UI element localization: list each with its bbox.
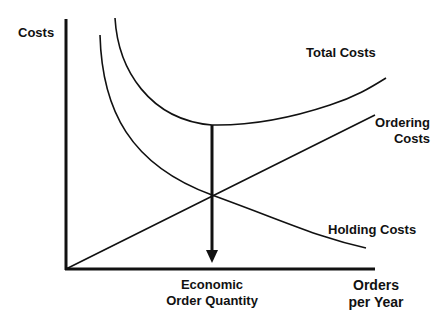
eoq-arrow-head-icon	[206, 250, 218, 263]
ordering-costs-label-line1: Ordering	[372, 115, 430, 131]
x-axis-label-line1: Orders	[341, 277, 411, 294]
eoq-label-line2: Order Quantity	[160, 293, 264, 309]
ordering-costs-label-line2: Costs	[372, 131, 430, 147]
eoq-diagram	[0, 0, 447, 318]
x-axis-label-line2: per Year	[341, 294, 411, 311]
holding-costs-curve	[100, 35, 366, 248]
ordering-costs-line	[66, 115, 375, 269]
ordering-costs-label: Ordering Costs	[372, 115, 430, 147]
total-costs-curve	[115, 18, 386, 125]
eoq-label-line1: Economic	[160, 277, 264, 293]
holding-costs-label: Holding Costs	[328, 222, 416, 238]
total-costs-label: Total Costs	[306, 45, 376, 61]
x-axis-label: Orders per Year	[341, 277, 411, 311]
y-axis-label: Costs	[18, 25, 54, 41]
eoq-label: Economic Order Quantity	[160, 277, 264, 309]
